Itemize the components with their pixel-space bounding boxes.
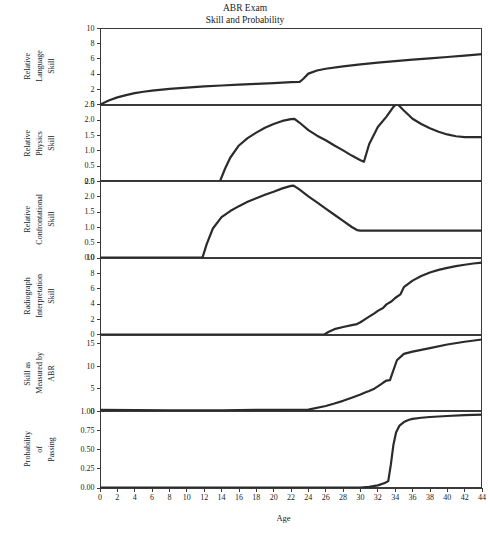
y-axis-label-relative-confrontational-skill-line1: Relative (22, 181, 34, 258)
y-axis-label-probability-of-passing-line1: Probability (22, 411, 34, 488)
y-axis-label-probability-of-passing-line2: of (34, 411, 46, 488)
plot-area-relative-physics-skill: 0.00.51.01.52.02.5 (85, 105, 482, 182)
panel-skill-as-measured-by-abr: Skill asMeasured byABR051015 (0, 335, 490, 412)
y-tick-label: 1.0 (85, 223, 98, 232)
x-tick: 34 (391, 488, 399, 502)
x-tick-mark (291, 488, 292, 492)
panel-probability-of-passing: ProbabilityofPassing0.000.250.500.751.00 (0, 411, 490, 488)
x-tick-label: 36 (409, 493, 417, 502)
y-axis-label-radiograph-interpretation-skill-line3: Skill (46, 258, 58, 335)
x-tick-label: 0 (98, 493, 102, 502)
panel-stack: RelativeLanguageSkill0246810RelativePhys… (0, 28, 490, 488)
y-axis-label-probability-of-passing-line3: Passing (46, 411, 58, 488)
y-axis-label-skill-as-measured-by-abr-line1: Skill as (22, 335, 34, 412)
x-tick: 44 (478, 488, 486, 502)
data-line-skill-as-measured-by-abr (100, 335, 482, 412)
data-line-radiograph-interpretation-skill (100, 258, 482, 335)
data-line-probability-of-passing (100, 411, 482, 488)
x-tick-mark (204, 488, 205, 492)
x-tick-label: 26 (322, 493, 330, 502)
y-tick-label: 1.0 (85, 146, 98, 155)
x-tick-mark (117, 488, 118, 492)
x-tick: 0 (98, 488, 102, 502)
x-tick: 2 (115, 488, 119, 502)
panel-relative-language-skill: RelativeLanguageSkill0246810 (0, 28, 490, 105)
x-tick: 30 (356, 488, 364, 502)
x-tick-mark (325, 488, 326, 492)
y-ticks-probability-of-passing: 0.000.250.500.751.00 (85, 411, 100, 488)
series-polyline (100, 54, 482, 105)
x-tick-label: 24 (304, 493, 312, 502)
x-tick-mark (256, 488, 257, 492)
panel-relative-confrontational-skill: RelativeConfrontationalSkill0.00.51.01.5… (0, 181, 490, 258)
y-tick-label: 2.5 (85, 177, 98, 186)
x-tick: 10 (183, 488, 191, 502)
y-axis-label-relative-physics-skill-line2: Physics (34, 105, 46, 182)
series-polyline (100, 105, 482, 182)
x-tick-label: 40 (443, 493, 451, 502)
y-tick-label: 0.5 (85, 238, 98, 247)
x-tick-mark (464, 488, 465, 492)
x-tick: 22 (287, 488, 295, 502)
series-polyline (100, 415, 482, 488)
x-tick-mark (482, 488, 483, 492)
plot-area-radiograph-interpretation-skill: 0246810 (85, 258, 482, 335)
y-tick-label: 1.5 (85, 207, 98, 216)
y-axis-label-relative-language-skill-line3: Skill (46, 28, 58, 105)
x-tick-mark (360, 488, 361, 492)
x-tick-label: 16 (235, 493, 243, 502)
x-tick-label: 44 (478, 493, 486, 502)
y-axis-label-skill-as-measured-by-abr-line2: Measured by (34, 335, 46, 412)
x-tick-label: 12 (200, 493, 208, 502)
x-tick-label: 14 (218, 493, 226, 502)
y-tick-label: 1.00 (81, 407, 98, 416)
x-tick: 12 (200, 488, 208, 502)
panel-radiograph-interpretation-skill: RadiographInterpretationSkill0246810 (0, 258, 490, 335)
x-tick: 14 (218, 488, 226, 502)
x-tick: 18 (252, 488, 260, 502)
y-axis-label-relative-confrontational-skill-line2: Confrontational (34, 181, 46, 258)
x-tick-label: 30 (356, 493, 364, 502)
x-tick-label: 6 (150, 493, 154, 502)
y-axis-label-relative-physics-skill-line1: Relative (22, 105, 34, 182)
y-axis-label-relative-language-skill-line2: Language (34, 28, 46, 105)
x-tick-label: 4 (133, 493, 137, 502)
x-tick-mark (100, 488, 101, 492)
x-tick-label: 18 (252, 493, 260, 502)
x-tick-mark (395, 488, 396, 492)
x-tick-mark (447, 488, 448, 492)
y-tick-label: 1.5 (85, 131, 98, 140)
x-tick: 28 (339, 488, 347, 502)
x-tick: 32 (374, 488, 382, 502)
x-tick-label: 20 (270, 493, 278, 502)
y-axis-label-relative-physics-skill-line3: Skill (46, 105, 58, 182)
x-tick-label: 28 (339, 493, 347, 502)
y-ticks-radiograph-interpretation-skill: 0246810 (85, 258, 100, 335)
y-axis-label-relative-language-skill-line1: Relative (22, 28, 34, 105)
x-tick: 8 (167, 488, 171, 502)
y-axis-label-relative-confrontational-skill-line3: Skill (46, 181, 58, 258)
title-line-1: ABR Exam (0, 3, 490, 15)
x-tick-label: 10 (183, 493, 191, 502)
series-polyline (100, 186, 482, 258)
y-tick-label: 10 (87, 253, 98, 262)
x-tick-label: 34 (391, 493, 399, 502)
x-tick-label: 22 (287, 493, 295, 502)
plot-area-probability-of-passing: 0.000.250.500.751.00 (85, 411, 482, 488)
series-polyline (100, 263, 482, 335)
x-tick: 26 (322, 488, 330, 502)
y-axis-label-radiograph-interpretation-skill-line1: Radiograph (22, 258, 34, 335)
x-tick-mark (152, 488, 153, 492)
data-line-relative-physics-skill (100, 105, 482, 182)
x-tick: 24 (304, 488, 312, 502)
x-tick: 40 (443, 488, 451, 502)
x-tick-mark (273, 488, 274, 492)
y-ticks-relative-confrontational-skill: 0.00.51.01.52.02.5 (85, 181, 100, 258)
series-polyline (100, 339, 482, 410)
y-axis-label-radiograph-interpretation-skill-line2: Interpretation (34, 258, 46, 335)
x-tick: 36 (409, 488, 417, 502)
y-tick-label: 15 (87, 339, 98, 348)
x-tick-mark (343, 488, 344, 492)
x-tick-label: 32 (374, 493, 382, 502)
y-tick-label: 10 (87, 362, 98, 371)
